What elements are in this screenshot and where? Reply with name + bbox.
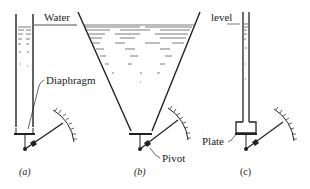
caption-b: (b) (134, 166, 146, 178)
caption-c: (c) (240, 166, 251, 178)
pressure-gauge-diagram: Water level (0, 0, 310, 189)
water-dashes-c (244, 24, 248, 79)
panel-b: Pivot (b) (78, 12, 200, 178)
caption-a: (a) (19, 166, 31, 178)
plate-label: Plate (202, 135, 224, 147)
water-label: Water (44, 11, 70, 23)
water-dashes-b (83, 25, 194, 82)
panel-a: Diaphragm (a) (14, 14, 96, 178)
panel-c: Plate (c) (202, 12, 297, 178)
water-dashes-a (18, 27, 31, 66)
pivot-label: Pivot (162, 152, 185, 164)
diaphragm-label: Diaphragm (46, 74, 96, 86)
level-label: level (211, 11, 232, 23)
